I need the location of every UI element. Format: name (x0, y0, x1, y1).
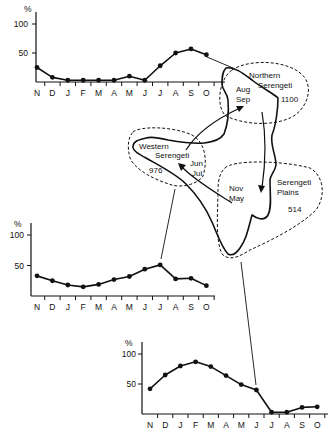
data-point (178, 364, 183, 369)
data-point (127, 274, 132, 279)
label-jul: Jul (192, 169, 202, 178)
data-point (163, 373, 168, 378)
month-label: O (314, 420, 321, 430)
y-unit-label: % (125, 338, 133, 348)
leader-line-plains (241, 262, 256, 385)
y-tick-label: 100 (14, 19, 28, 29)
y-tick-label: 50 (19, 48, 29, 58)
leader-line-west (161, 189, 175, 259)
month-label: F (81, 302, 86, 312)
y-tick-label: 50 (15, 261, 25, 271)
data-point (65, 78, 70, 83)
data-point (269, 410, 274, 415)
month-label: N (34, 302, 40, 312)
data-point (189, 276, 194, 281)
chart-serengeti-plains: 10050%NDJFMAMJJASO (122, 338, 328, 430)
y-tick-label: 100 (10, 230, 24, 240)
label-northern-count: 1100 (281, 95, 299, 104)
month-label: J (66, 302, 70, 312)
data-point (204, 52, 209, 57)
data-point (50, 75, 55, 80)
month-label: A (223, 420, 229, 430)
month-label: J (269, 420, 273, 430)
month-label: N (34, 88, 40, 98)
month-label: J (158, 302, 162, 312)
month-label: F (81, 88, 86, 98)
month-label: M (95, 88, 102, 98)
label-aug: Aug (236, 85, 250, 94)
label-western: Western (139, 142, 169, 151)
month-label: J (178, 420, 182, 430)
migration-arrow-plains-to-west (181, 166, 232, 203)
y-tick-label: 100 (122, 349, 136, 359)
month-label: S (188, 88, 194, 98)
month-label: J (143, 302, 147, 312)
month-label: J (254, 420, 258, 430)
chart-western-serengeti: 10050%NDJFMAMJJASO (10, 219, 215, 312)
figure: 10050%NDJFMAMJJASO 10050%NDJFMAMJJASO 10… (0, 0, 330, 436)
data-point (300, 405, 305, 410)
label-plains-count: 514 (288, 205, 302, 214)
month-label: M (207, 420, 214, 430)
label-serengeti-plains-2: Plains (277, 188, 299, 197)
data-point (284, 410, 289, 415)
month-label: M (126, 302, 133, 312)
label-northern: Northern (249, 71, 280, 80)
data-point (81, 78, 86, 83)
month-label: J (66, 88, 70, 98)
arrowhead-plains-icon (258, 185, 265, 193)
data-point (81, 284, 86, 289)
month-label: D (49, 302, 55, 312)
month-label: O (203, 302, 210, 312)
data-point (254, 388, 259, 393)
y-unit-label: % (14, 219, 22, 229)
label-nov: Nov (229, 184, 243, 193)
label-may: May (229, 194, 244, 203)
data-point (208, 364, 213, 369)
data-point (142, 78, 147, 83)
chart-northern-serengeti: 10050%NDJFMAMJJASO (14, 4, 225, 98)
month-label: D (162, 420, 168, 430)
y-tick-label: 50 (127, 379, 137, 389)
y-unit-label: % (24, 4, 32, 14)
data-point (189, 47, 194, 52)
label-sep: Sep (236, 95, 251, 104)
data-point (239, 382, 244, 387)
data-point (96, 282, 101, 287)
month-label: J (158, 88, 162, 98)
label-serengeti-plains-1: Serengeti (277, 178, 311, 187)
data-point (142, 267, 147, 272)
month-label: F (193, 420, 198, 430)
data-line (37, 265, 206, 287)
data-point (173, 51, 178, 56)
month-label: O (203, 88, 210, 98)
data-line (150, 362, 317, 412)
data-point (127, 74, 132, 79)
data-point (224, 373, 229, 378)
month-label: M (238, 420, 245, 430)
data-point (173, 277, 178, 282)
data-point (148, 386, 153, 391)
label-western-count: 976 (149, 166, 163, 175)
data-point (96, 78, 101, 83)
month-label: A (111, 88, 117, 98)
data-point (315, 404, 320, 409)
month-label: M (95, 302, 102, 312)
month-label: N (147, 420, 153, 430)
data-point (158, 63, 163, 68)
month-label: S (299, 420, 305, 430)
month-label: A (173, 88, 179, 98)
leader-line-north (207, 57, 233, 68)
month-label: A (284, 420, 290, 430)
label-serengeti-west: Serengeti (155, 151, 189, 160)
data-point (35, 65, 40, 70)
data-point (193, 359, 198, 364)
data-point (204, 283, 209, 288)
data-point (158, 262, 163, 267)
data-point (65, 283, 70, 288)
month-label: M (126, 88, 133, 98)
label-serengeti-north: Serengeti (258, 81, 292, 90)
data-point (112, 78, 117, 83)
month-label: J (143, 88, 147, 98)
month-label: A (173, 302, 179, 312)
